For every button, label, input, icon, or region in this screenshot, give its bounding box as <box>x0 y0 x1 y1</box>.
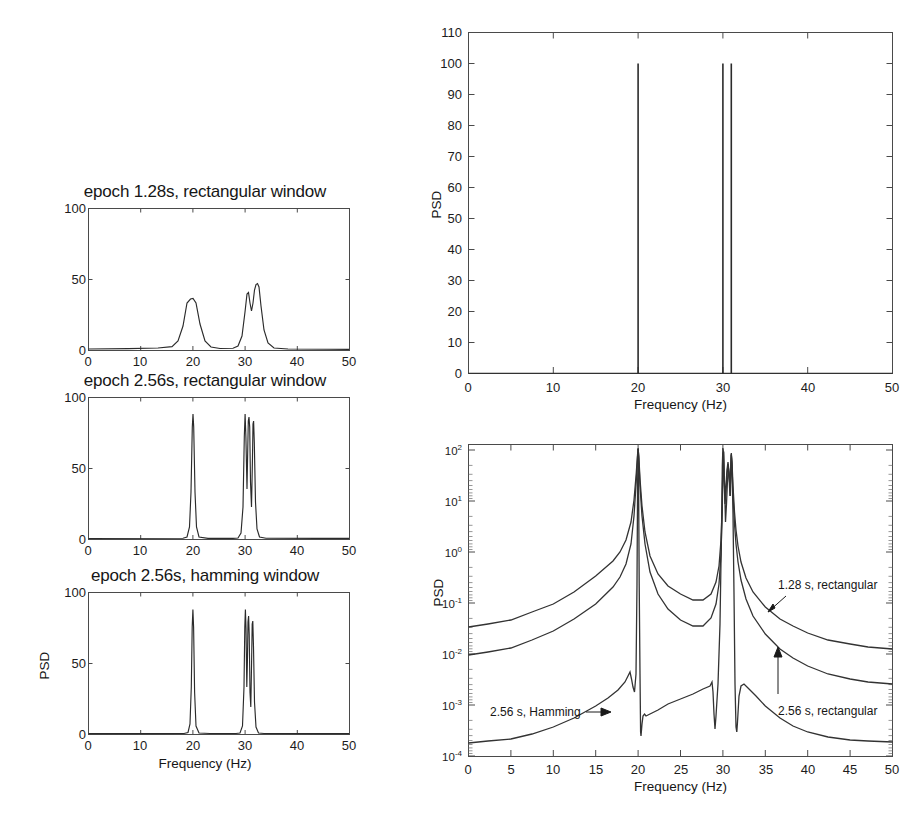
plot-area-left-top <box>88 208 350 358</box>
x-tick-rb-20: 20 <box>631 762 645 777</box>
y-tick-left-mid-100: 100 <box>54 390 86 405</box>
panel-right-top: PSD 110 100 90 80 70 60 50 40 30 20 10 0 <box>430 22 890 402</box>
y-tick-rb-1em3: 10-3 <box>428 698 462 712</box>
y-tick-rt-50: 50 <box>430 211 462 226</box>
y-tick-rt-100: 100 <box>430 56 462 71</box>
y-tick-left-top-0: 0 <box>54 343 86 358</box>
x-tick-left-bot-40: 40 <box>290 738 304 753</box>
y-tick-rb-1em4: 10-4 <box>428 749 462 763</box>
series-256s-hamming <box>469 448 893 743</box>
x-tick-left-bot-30: 30 <box>238 738 252 753</box>
y-tick-left-top-100: 100 <box>54 201 86 216</box>
y-tick-left-mid-0: 0 <box>54 532 86 547</box>
y-tick-rb-1e0: 100 <box>428 545 462 559</box>
annotation-label-256s-rectangular: 2.56 s, rectangular <box>778 704 877 718</box>
plot-area-right-bot <box>468 444 893 784</box>
x-tick-left-bot-10: 10 <box>133 738 147 753</box>
x-tick-left-mid-20: 20 <box>186 543 200 558</box>
annotation-arrow-256s-rect <box>774 647 782 694</box>
y-tick-left-bot-100: 100 <box>54 585 86 600</box>
x-tick-rb-35: 35 <box>759 762 773 777</box>
panel-left-bot: epoch 2.56s, hamming window PSD 100 50 0… <box>60 566 350 766</box>
x-tick-rb-0: 0 <box>464 762 471 777</box>
x-tick-rt-50: 50 <box>885 380 899 395</box>
x-tick-left-top-50: 50 <box>342 354 356 369</box>
y-tick-rb-1e1: 101 <box>428 494 462 508</box>
x-tick-rt-10: 10 <box>546 380 560 395</box>
x-tick-rt-20: 20 <box>631 380 645 395</box>
x-tick-left-top-10: 10 <box>133 354 147 369</box>
x-tick-rb-45: 45 <box>843 762 857 777</box>
y-tick-rt-0: 0 <box>430 366 462 381</box>
y-tick-rt-30: 30 <box>430 273 462 288</box>
y-tick-rt-110: 110 <box>430 25 462 40</box>
y-tick-left-top-50: 50 <box>54 272 86 287</box>
annotation-label-128s-rectangular: 1.28 s, rectangular <box>778 578 877 592</box>
panel-left-bot-xlabel: Frequency (Hz) <box>60 756 350 771</box>
panel-left-mid: epoch 2.56s, rectangular window 100 50 0… <box>60 371 350 546</box>
y-tick-rt-40: 40 <box>430 242 462 257</box>
x-tick-rb-25: 25 <box>674 762 688 777</box>
plot-area-left-bot <box>88 592 350 742</box>
plot-area-left-mid <box>88 397 350 547</box>
x-tick-left-bot-0: 0 <box>84 738 91 753</box>
series-256s-rectangular <box>469 448 893 684</box>
x-tick-left-mid-0: 0 <box>84 543 91 558</box>
x-tick-left-top-30: 30 <box>238 354 252 369</box>
y-tick-rt-70: 70 <box>430 149 462 164</box>
panel-left-top: epoch 1.28s, rectangular window 100 50 0… <box>60 182 350 357</box>
x-tick-rb-15: 15 <box>589 762 603 777</box>
x-tick-rb-50: 50 <box>885 762 899 777</box>
y-tick-rt-90: 90 <box>430 87 462 102</box>
series-128s-rectangular <box>469 449 893 649</box>
panel-left-mid-title: epoch 2.56s, rectangular window <box>60 371 350 391</box>
y-tick-rb-1em2: 10-2 <box>428 647 462 661</box>
x-tick-left-mid-10: 10 <box>133 543 147 558</box>
x-tick-left-bot-20: 20 <box>186 738 200 753</box>
x-tick-left-mid-40: 40 <box>290 543 304 558</box>
x-tick-left-top-20: 20 <box>186 354 200 369</box>
panel-right-bot: PSD 102 101 100 10-1 10-2 10-3 10-4 <box>430 430 890 830</box>
annotation-arrow-128s <box>768 596 786 612</box>
annotation-label-256s-hamming: 2.56 s, Hamming <box>490 705 581 719</box>
y-tick-rt-20: 20 <box>430 304 462 319</box>
y-tick-left-bot-50: 50 <box>54 656 86 671</box>
panel-left-bot-title: epoch 2.56s, hamming window <box>60 566 350 586</box>
x-tick-left-mid-50: 50 <box>342 543 356 558</box>
panel-left-top-title: epoch 1.28s, rectangular window <box>60 182 350 202</box>
x-tick-rt-40: 40 <box>801 380 815 395</box>
x-tick-left-top-0: 0 <box>84 354 91 369</box>
y-tick-rt-10: 10 <box>430 335 462 350</box>
x-tick-left-top-40: 40 <box>290 354 304 369</box>
panel-right-top-xlabel: Frequency (Hz) <box>468 397 893 412</box>
panel-right-bot-xlabel: Frequency (Hz) <box>468 779 893 794</box>
y-tick-rb-1em1: 10-1 <box>428 596 462 610</box>
x-tick-rb-40: 40 <box>801 762 815 777</box>
plot-area-right-top <box>468 32 893 377</box>
x-tick-rb-10: 10 <box>546 762 560 777</box>
x-tick-rt-0: 0 <box>464 380 471 395</box>
y-tick-rt-80: 80 <box>430 118 462 133</box>
x-tick-rt-30: 30 <box>716 380 730 395</box>
x-tick-rb-5: 5 <box>507 762 514 777</box>
x-tick-left-mid-30: 30 <box>238 543 252 558</box>
x-tick-rb-30: 30 <box>716 762 730 777</box>
y-tick-left-mid-50: 50 <box>54 461 86 476</box>
panel-left-bot-ylabel: PSD <box>37 646 52 686</box>
y-tick-rt-60: 60 <box>430 180 462 195</box>
y-tick-rb-1e2: 102 <box>428 443 462 457</box>
x-tick-left-bot-50: 50 <box>342 738 356 753</box>
y-tick-left-bot-0: 0 <box>54 727 86 742</box>
